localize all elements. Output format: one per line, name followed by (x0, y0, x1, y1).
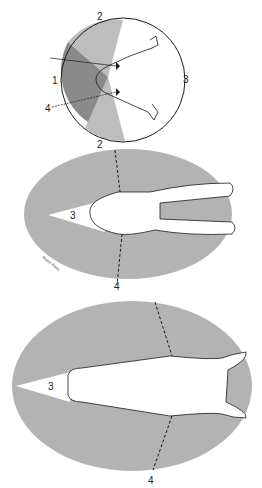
label-1: 1 (52, 75, 58, 86)
bottom-figure: 3 4 (12, 301, 252, 486)
bottom-label-3: 3 (48, 381, 54, 392)
bottom-label-4: 4 (148, 475, 154, 486)
middle-figure: 3 4 Robin Hess (24, 149, 235, 292)
middle-label-4: 4 (114, 281, 120, 292)
eye-lower (116, 88, 120, 96)
label-2-bottom: 2 (97, 139, 103, 150)
label-2-top: 2 (97, 11, 103, 22)
label-4: 4 (45, 103, 51, 114)
top-figure: 2 1 3 4 2 (45, 11, 189, 150)
eye-upper (116, 62, 120, 70)
visual-field-diagram: 2 1 3 4 2 3 4 Robin Hess 3 4 (0, 0, 262, 488)
label-3: 3 (183, 74, 189, 85)
middle-label-3: 3 (70, 210, 76, 221)
